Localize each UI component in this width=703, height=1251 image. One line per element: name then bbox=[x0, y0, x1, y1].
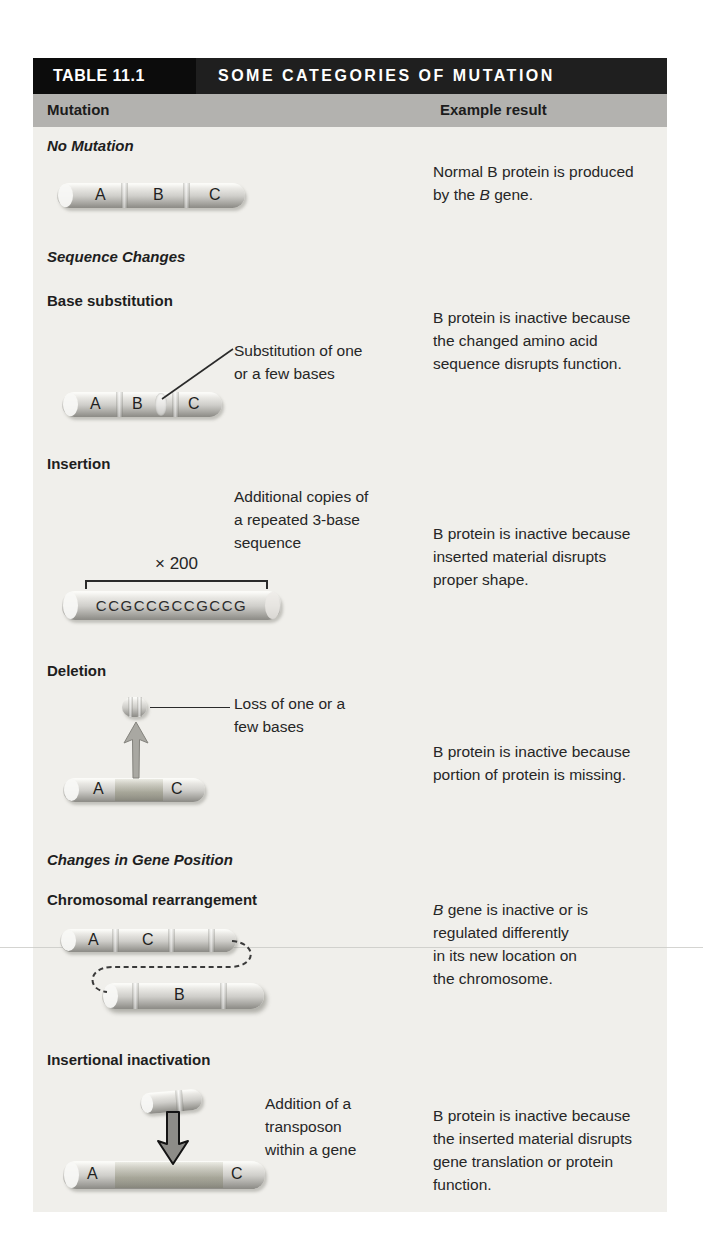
result-text: B protein is inactive because the insert… bbox=[433, 1104, 632, 1196]
deleted-fragment bbox=[122, 697, 147, 717]
segment-label: A bbox=[93, 780, 104, 798]
section-heading-base-substitution: Base substitution bbox=[47, 292, 173, 309]
result-text: B gene is inactive or is regulated diffe… bbox=[433, 898, 588, 990]
table-title: SOME CATEGORIES OF MUTATION bbox=[218, 67, 555, 85]
section-heading-no-mutation: No Mutation bbox=[47, 137, 134, 154]
repeat-multiplier: × 200 bbox=[85, 552, 268, 575]
callout-label: Substitution of one or a few bases bbox=[234, 339, 362, 385]
deleted-region bbox=[115, 779, 163, 801]
section-heading-insertional: Insertional inactivation bbox=[47, 1051, 210, 1068]
column-header-example-result: Example result bbox=[440, 101, 547, 118]
section-heading-rearrangement: Chromosomal rearrangement bbox=[47, 891, 257, 908]
up-arrow-icon bbox=[123, 721, 150, 779]
dashed-translocation-path bbox=[80, 930, 260, 1000]
chromosome-abc: A B C bbox=[57, 183, 245, 208]
repeat-bracket bbox=[85, 580, 268, 589]
segment-label: B bbox=[132, 395, 143, 413]
callout-label: Addition of a transposon within a gene bbox=[265, 1092, 356, 1161]
pointer-line bbox=[150, 707, 230, 708]
segment-label: A bbox=[90, 395, 101, 413]
result-text: B protein is inactive because inserted m… bbox=[433, 522, 630, 591]
pointer-line bbox=[158, 345, 240, 403]
column-header-mutation: Mutation bbox=[47, 101, 109, 118]
result-text: B protein is inactive because the change… bbox=[433, 306, 630, 375]
section-heading-deletion: Deletion bbox=[47, 662, 106, 679]
repeat-sequence-text: CCGCCGCCGCCG bbox=[62, 597, 281, 614]
section-heading-sequence-changes: Sequence Changes bbox=[47, 248, 185, 265]
segment-label: A bbox=[87, 1165, 98, 1183]
section-heading-insertion: Insertion bbox=[47, 455, 110, 472]
chromosome-deletion: A C bbox=[63, 778, 205, 802]
callout-label: Additional copies of a repeated 3-base s… bbox=[234, 485, 368, 554]
column-header-bar: Mutation Example result bbox=[33, 94, 667, 127]
section-heading-gene-position: Changes in Gene Position bbox=[47, 851, 233, 868]
table-body-background bbox=[33, 127, 667, 1212]
segment-label: C bbox=[231, 1165, 243, 1183]
table-tag: TABLE 11.1 bbox=[33, 58, 196, 94]
segment-label: A bbox=[95, 186, 106, 204]
chromosome-repeat-sequence: CCGCCGCCGCCG bbox=[62, 591, 281, 620]
down-arrow-icon bbox=[156, 1110, 190, 1166]
result-text: B protein is inactive because portion of… bbox=[433, 740, 630, 786]
segment-label: C bbox=[209, 186, 221, 204]
segment-label: C bbox=[171, 780, 183, 798]
result-text: Normal B protein is produced by the B ge… bbox=[433, 160, 634, 206]
segment-label: B bbox=[153, 186, 164, 204]
callout-label: Loss of one or a few bases bbox=[234, 692, 345, 738]
